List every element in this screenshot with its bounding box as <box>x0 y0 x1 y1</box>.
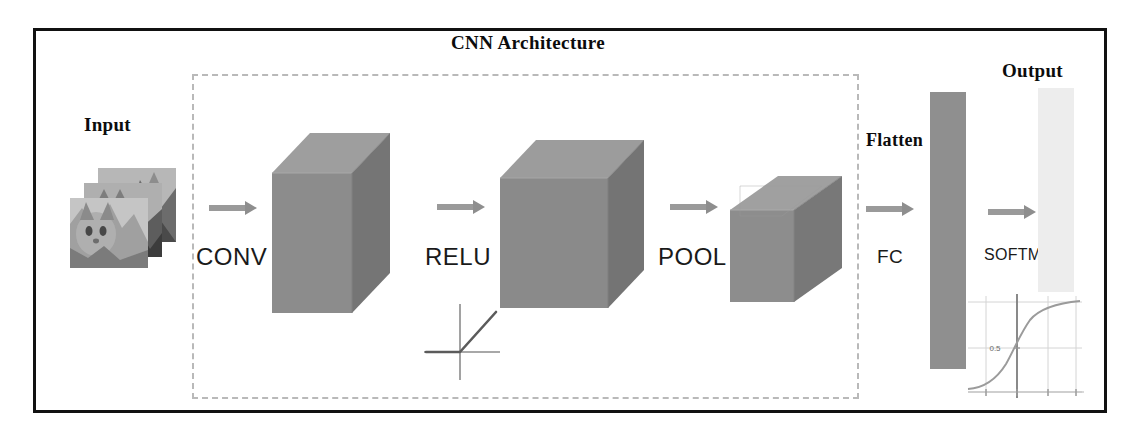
arrow-shaft <box>988 209 1024 215</box>
conv-label: CONV <box>196 243 267 271</box>
arrow-relu-to-pool <box>670 200 718 214</box>
pool-volume <box>730 176 842 306</box>
output-label: Output <box>1002 60 1063 82</box>
arrow-head <box>902 202 914 216</box>
conv-volume <box>272 133 390 317</box>
sigmoid-activation-plot: 0.5 <box>962 288 1088 404</box>
sigmoid-tick-label: 0.5 <box>989 344 1001 353</box>
arrow-head <box>706 200 718 214</box>
input-photo-1 <box>70 198 148 268</box>
figure-title: CNN Architecture <box>451 32 605 54</box>
output-column <box>1038 88 1074 292</box>
relu-activation-plot <box>420 300 508 386</box>
arrow-shaft <box>209 205 245 211</box>
flatten-column <box>930 92 966 369</box>
arrow-fc-to-output <box>988 205 1036 219</box>
arrow-shaft <box>670 204 706 210</box>
arrow-conv-to-relu <box>437 200 485 214</box>
flatten-label: Flatten <box>866 130 923 151</box>
fc-label: FC <box>877 246 903 268</box>
arrow-shaft <box>437 204 473 210</box>
arrow-pool-to-flatten <box>866 202 914 216</box>
input-label: Input <box>84 114 131 136</box>
arrow-input-to-conv <box>209 201 257 215</box>
arrow-head <box>473 200 485 214</box>
relu-volume <box>500 140 644 312</box>
figure-canvas: CNN Architecture Input <box>0 0 1142 436</box>
pool-label: POOL <box>658 243 727 271</box>
arrow-head <box>245 201 257 215</box>
arrow-head <box>1024 205 1036 219</box>
arrow-shaft <box>866 206 902 212</box>
relu-label: RELU <box>425 243 491 271</box>
